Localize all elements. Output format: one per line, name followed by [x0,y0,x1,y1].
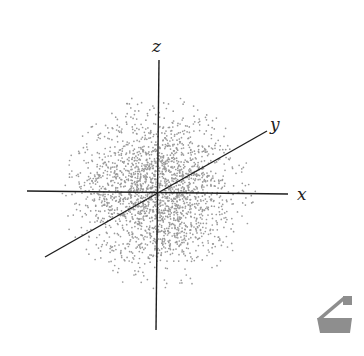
scatter-3d-diagram: x y z [0,0,364,356]
y-axis-label: y [269,114,280,134]
x-axis-label: x [297,184,307,204]
paint-bucket-icon[interactable] [317,296,352,333]
z-axis-label: z [151,36,162,56]
